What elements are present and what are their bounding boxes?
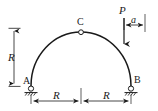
label-load-p: P	[118, 4, 126, 16]
label-offset-a: a	[131, 14, 136, 25]
arch-curve	[31, 32, 131, 86]
support-b	[125, 86, 138, 96]
support-a	[25, 86, 38, 96]
label-span-left: R	[52, 89, 60, 101]
hinge-circle-icon	[79, 30, 84, 35]
label-span-right: R	[102, 89, 110, 101]
label-support-a: A	[23, 75, 31, 86]
arch-diagram-svg: R R R A B C P a	[0, 0, 158, 111]
label-crown-hinge: C	[77, 16, 84, 27]
arch-member	[31, 32, 131, 86]
dimension-span-bottom	[31, 88, 131, 104]
pin-circle-a-icon	[28, 86, 33, 91]
pin-circle-b-icon	[128, 86, 133, 91]
label-radius-vertical: R	[7, 51, 15, 63]
label-support-b: B	[134, 74, 141, 85]
figure-canvas: R R R A B C P a	[0, 0, 158, 111]
crown-hinge-marker	[79, 30, 84, 35]
